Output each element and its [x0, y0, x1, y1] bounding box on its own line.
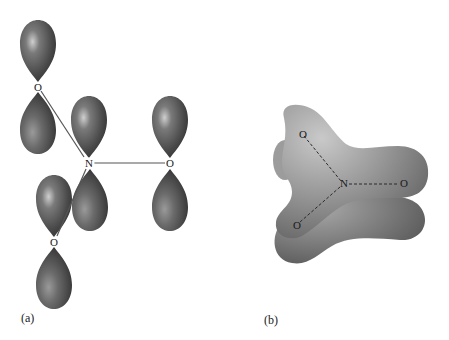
atom-label-n: N — [84, 157, 95, 169]
atom-label-o-top-b: O — [299, 128, 307, 140]
atom-label-o-right: O — [165, 157, 175, 169]
atom-label-o-bottom-b: O — [293, 219, 301, 231]
orbital-lobe-upper — [71, 96, 107, 158]
orbital-lobe-lower — [152, 169, 188, 231]
figure-canvas: O N O O (a) O N O O (b) — [0, 0, 449, 340]
svg-text:O: O — [50, 236, 58, 248]
svg-text:O: O — [34, 81, 42, 93]
atom-label-o-top: O — [33, 81, 43, 93]
orbital-lobe-lower — [36, 247, 72, 309]
panel-a-p-orbitals: O N O O (a) — [20, 20, 188, 325]
orbital-lobe-upper — [36, 175, 72, 237]
svg-text:N: N — [85, 157, 93, 169]
orbital-lobe-upper — [152, 96, 188, 158]
svg-text:O: O — [166, 157, 174, 169]
atom-label-o-bottom: O — [49, 236, 59, 248]
panel-label-a: (a) — [21, 311, 34, 325]
atom-label-o-right-b: O — [400, 177, 408, 189]
atom-label-n-b: N — [340, 177, 348, 189]
orbital-lobe-lower — [72, 169, 108, 231]
panel-b-pi-cloud: O N O O (b) — [264, 105, 428, 327]
orbital-lobe-lower — [20, 92, 56, 154]
panel-label-b: (b) — [264, 313, 278, 327]
orbital-lobe-upper — [20, 20, 56, 82]
